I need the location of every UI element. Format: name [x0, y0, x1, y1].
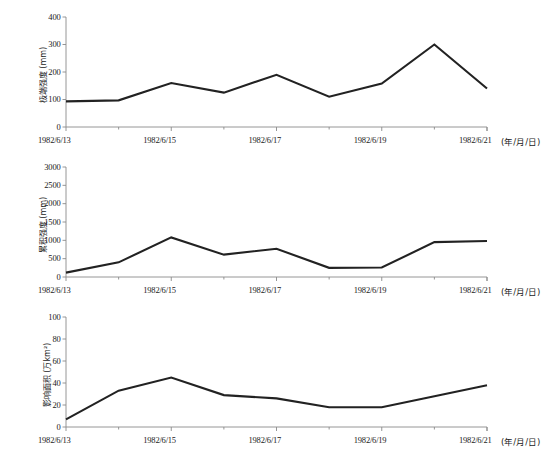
y-axis-tick-label: 40 — [27, 378, 61, 388]
x-axis-tick-label: 1982/6/17 — [249, 285, 282, 295]
y-axis-tick-label: 100 — [27, 94, 61, 104]
x-axis-tick-label: 1982/6/19 — [354, 285, 387, 295]
y-axis-tick-label: 200 — [27, 67, 61, 77]
data-series-line — [66, 378, 487, 420]
data-series-line — [66, 45, 487, 102]
y-axis-tick-label: 2000 — [27, 198, 61, 208]
y-axis-tick-label: 80 — [27, 334, 61, 344]
x-axis-tick-label: 1982/6/13 — [38, 135, 71, 145]
x-axis-tick-label: 1982/6/21 — [459, 285, 492, 295]
line-chart-3 — [0, 300, 549, 449]
y-axis-tick-label: 0 — [27, 422, 61, 432]
x-axis-tick-label: 1982/6/13 — [38, 285, 71, 295]
x-axis-tick-label: 1982/6/21 — [459, 135, 492, 145]
y-axis-tick-label: 0 — [27, 272, 61, 282]
figure-container: 极端强度 (mm) 01002003004001982/6/131982/6/1… — [0, 0, 549, 449]
x-axis-unit-label: (年/月/日) — [501, 135, 540, 147]
chart-panel-cumulative-intensity: 累积强度 (mm) 0500100015002000250030001982/6… — [0, 150, 549, 300]
y-axis-tick-label: 20 — [27, 400, 61, 410]
x-axis-tick-label: 1982/6/17 — [249, 435, 282, 445]
x-axis-tick-label: 1982/6/13 — [38, 435, 71, 445]
y-axis-tick-label: 400 — [27, 12, 61, 22]
x-axis-tick-label: 1982/6/17 — [249, 135, 282, 145]
chart-panel-affected-area: 影响面积 (万km²) 0204060801001982/6/131982/6/… — [0, 300, 549, 449]
y-axis-tick-label: 3000 — [27, 162, 61, 172]
x-axis-tick-label: 1982/6/19 — [354, 135, 387, 145]
y-axis-tick-label: 1500 — [27, 217, 61, 227]
x-axis-tick-label: 1982/6/19 — [354, 435, 387, 445]
x-axis-tick-label: 1982/6/15 — [143, 435, 176, 445]
line-chart-2 — [0, 150, 549, 300]
y-axis-tick-label: 100 — [27, 312, 61, 322]
y-axis-tick-label: 1000 — [27, 235, 61, 245]
y-axis-tick-label: 0 — [27, 122, 61, 132]
x-axis-tick-label: 1982/6/15 — [143, 285, 176, 295]
data-series-line — [66, 237, 487, 272]
x-axis-unit-label: (年/月/日) — [501, 435, 540, 447]
y-axis-tick-label: 300 — [27, 39, 61, 49]
x-axis-unit-label: (年/月/日) — [501, 285, 540, 297]
y-axis-tick-label: 60 — [27, 356, 61, 366]
line-chart-1 — [0, 0, 549, 150]
y-axis-tick-label: 500 — [27, 253, 61, 263]
y-axis-tick-label: 2500 — [27, 180, 61, 190]
x-axis-tick-label: 1982/6/21 — [459, 435, 492, 445]
x-axis-tick-label: 1982/6/15 — [143, 135, 176, 145]
chart-panel-extreme-intensity: 极端强度 (mm) 01002003004001982/6/131982/6/1… — [0, 0, 549, 150]
